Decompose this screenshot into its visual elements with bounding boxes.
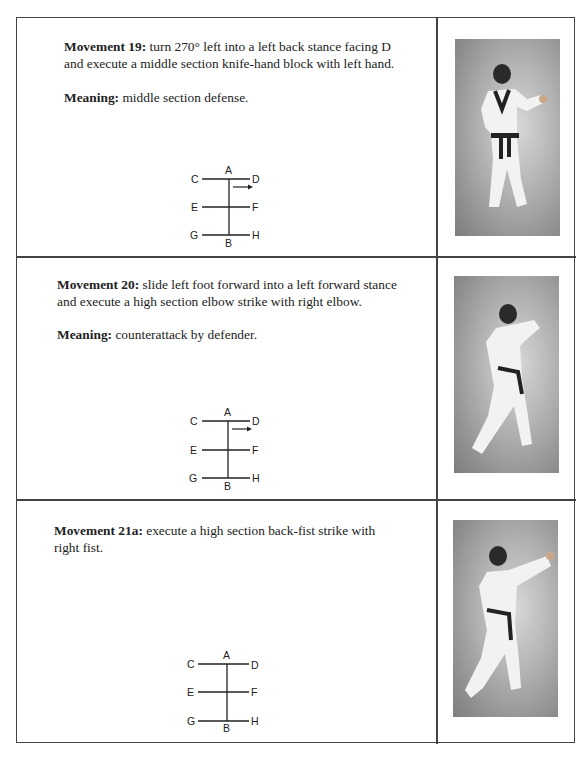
direction-diagram: A C D E F G H B: [163, 643, 273, 733]
martial-artist-figure: [455, 39, 560, 236]
svg-text:H: H: [252, 229, 260, 241]
svg-text:C: C: [190, 415, 198, 427]
svg-text:A: A: [224, 406, 231, 418]
meaning-description: Meaning: counterattack by defender.: [57, 326, 402, 343]
movement-label: Movement 19:: [64, 39, 146, 54]
svg-text:C: C: [187, 658, 195, 670]
svg-text:A: A: [223, 649, 230, 661]
direction-diagram-svg: A C D E F G H B: [163, 643, 273, 733]
arrow-right-icon: [232, 427, 252, 432]
svg-text:A: A: [225, 164, 232, 176]
photo-martial-artist-elbow-strike: [454, 276, 559, 473]
svg-text:H: H: [251, 715, 259, 727]
movement-description: Movement 19: turn 270° left into a left …: [64, 38, 404, 72]
photo-martial-artist-back-fist: [453, 520, 558, 717]
direction-diagram-svg: A C D E F G H B: [172, 158, 282, 248]
movement-description: Movement 21a: execute a high section bac…: [54, 522, 402, 556]
svg-text:G: G: [189, 472, 197, 484]
svg-text:D: D: [251, 659, 259, 671]
meaning-label: Meaning:: [64, 90, 119, 105]
svg-text:G: G: [190, 229, 198, 241]
svg-text:E: E: [190, 444, 197, 456]
martial-artist-figure: [454, 276, 559, 473]
svg-text:G: G: [187, 715, 195, 727]
svg-text:H: H: [252, 472, 260, 484]
svg-text:E: E: [191, 201, 198, 213]
martial-artist-figure: [453, 520, 558, 717]
movement-label: Movement 21a:: [54, 523, 143, 538]
movement-description: Movement 20: slide left foot forward int…: [57, 276, 402, 310]
svg-text:C: C: [191, 173, 199, 185]
svg-text:B: B: [224, 480, 231, 492]
column-divider: [436, 17, 438, 744]
direction-diagram: A C D E F G H B: [172, 158, 282, 248]
svg-text:F: F: [251, 686, 257, 698]
meaning-text: middle section defense.: [119, 90, 248, 105]
row-divider: [16, 256, 576, 258]
photo-martial-artist-back-stance: [455, 39, 560, 236]
arrow-right-icon: [233, 185, 253, 190]
svg-text:B: B: [223, 722, 230, 733]
svg-text:F: F: [252, 201, 258, 213]
svg-text:D: D: [252, 173, 260, 185]
svg-text:B: B: [225, 237, 232, 248]
meaning-label: Meaning:: [57, 327, 112, 342]
meaning-text: counterattack by defender.: [112, 327, 257, 342]
svg-text:D: D: [252, 415, 260, 427]
row-divider: [16, 499, 576, 501]
svg-text:F: F: [252, 444, 258, 456]
direction-diagram-svg: A C D E F G H B: [172, 402, 282, 492]
meaning-description: Meaning: middle section defense.: [64, 89, 404, 106]
svg-text:E: E: [187, 686, 194, 698]
movement-label: Movement 20:: [57, 277, 139, 292]
direction-diagram: A C D E F G H B: [172, 402, 282, 492]
